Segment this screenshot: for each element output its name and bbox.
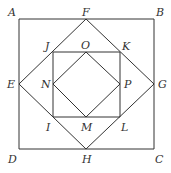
label-D: D (7, 153, 17, 166)
label-E: E (6, 78, 15, 91)
nested-squares-diagram: A B C D E F G H I J K L M N O P (0, 0, 171, 173)
label-O: O (81, 39, 90, 52)
label-G: G (158, 78, 167, 91)
label-M: M (80, 121, 93, 134)
label-H: H (81, 153, 92, 166)
label-P: P (123, 78, 132, 91)
label-L: L (120, 121, 128, 134)
label-A: A (7, 6, 16, 19)
label-B: B (155, 6, 164, 19)
square-MNOP (53, 52, 120, 117)
label-K: K (121, 40, 131, 53)
label-J: J (43, 40, 50, 53)
label-C: C (155, 153, 164, 166)
label-N: N (40, 78, 51, 91)
square-IJKL (53, 52, 120, 117)
label-I: I (45, 121, 51, 134)
label-F: F (81, 6, 90, 19)
